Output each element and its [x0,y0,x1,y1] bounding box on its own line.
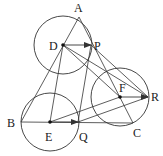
segment-DF [63,45,120,97]
label-P: P [94,39,101,53]
segment-AB [21,17,79,122]
label-A: A [74,1,83,15]
segment-PQ [78,45,91,122]
geometry-diagram: A D P B E Q C F R [0,0,163,156]
point-E [48,120,52,124]
label-R: R [151,90,159,104]
segment-DE [50,45,63,122]
center-dots [48,43,122,124]
segment-QR [78,97,148,122]
label-Q: Q [79,130,88,144]
segments [21,17,148,123]
label-B: B [7,116,15,130]
label-F: F [119,81,126,95]
label-C: C [133,126,141,140]
point-D [61,43,65,47]
label-D: D [49,39,58,53]
segment-EF [50,97,120,122]
label-E: E [45,130,52,144]
point-F [118,95,122,99]
